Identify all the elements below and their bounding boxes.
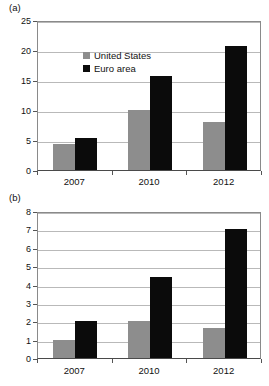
legend: United States Euro area <box>83 49 151 75</box>
figure-two-panel-bar-charts: (a) 0510152025 United States Euro area 2… <box>0 0 269 386</box>
legend-swatch-black-icon <box>83 65 90 72</box>
panel-a-y-axis: 0510152025 <box>0 21 37 171</box>
x-tick-label-2007: 2007 <box>64 365 85 376</box>
x-tick-label-2012: 2012 <box>213 176 234 187</box>
x-tick-mark <box>186 359 187 363</box>
bar-united-states-2012 <box>203 122 225 170</box>
bar-euro-area-2010 <box>150 76 172 170</box>
y-tick-label: 5 <box>26 263 31 272</box>
bar-euro-area-2012 <box>225 46 247 170</box>
legend-entry-united-states: United States <box>83 49 151 62</box>
y-tick-label: 0 <box>26 167 31 176</box>
panel-a-plot-area: United States Euro area <box>37 21 261 171</box>
panel-b-plot-area <box>37 212 261 359</box>
legend-swatch-gray-icon <box>83 52 90 59</box>
x-tick-label-2012: 2012 <box>213 365 234 376</box>
y-tick-label: 7 <box>26 226 31 235</box>
panel-a-letter: (a) <box>9 2 21 13</box>
x-tick-mark <box>112 359 113 363</box>
bar-united-states-2007 <box>53 340 75 358</box>
legend-label-united-states: United States <box>94 50 151 61</box>
panel-b: (b) 012345678 200720102012 <box>0 190 269 386</box>
bar-united-states-2010 <box>128 110 150 170</box>
legend-entry-euro-area: Euro area <box>83 62 151 75</box>
y-tick-label: 4 <box>26 281 31 290</box>
panel-b-letter: (b) <box>9 192 21 203</box>
y-tick-label: 15 <box>21 77 31 86</box>
x-tick-mark <box>261 359 262 363</box>
y-tick-label: 1 <box>26 336 31 345</box>
y-tick-label: 0 <box>26 355 31 364</box>
bar-euro-area-2012 <box>225 229 247 358</box>
bar-united-states-2010 <box>128 321 150 358</box>
x-tick-mark <box>112 171 113 175</box>
x-tick-label-2010: 2010 <box>138 176 159 187</box>
y-tick-label: 6 <box>26 244 31 253</box>
y-tick-label: 25 <box>21 17 31 26</box>
x-tick-mark <box>37 171 38 175</box>
bar-united-states-2012 <box>203 328 225 358</box>
y-tick-label: 20 <box>21 47 31 56</box>
bar-euro-area-2007 <box>75 138 97 170</box>
y-tick-label: 5 <box>26 137 31 146</box>
bar-euro-area-2010 <box>150 277 172 358</box>
x-tick-label-2007: 2007 <box>64 176 85 187</box>
y-tick-label: 3 <box>26 299 31 308</box>
x-tick-mark <box>186 171 187 175</box>
y-tick-label: 10 <box>21 107 31 116</box>
legend-label-euro-area: Euro area <box>94 63 136 74</box>
y-tick-label: 8 <box>26 208 31 217</box>
gridline <box>38 22 260 23</box>
x-tick-mark <box>261 171 262 175</box>
bar-euro-area-2007 <box>75 321 97 358</box>
y-tick-label: 2 <box>26 318 31 327</box>
x-tick-label-2010: 2010 <box>138 365 159 376</box>
panel-a: (a) 0510152025 United States Euro area 2… <box>0 0 269 196</box>
panel-b-y-axis: 012345678 <box>0 212 37 359</box>
gridline <box>38 213 260 214</box>
bar-united-states-2007 <box>53 144 75 170</box>
x-tick-mark <box>37 359 38 363</box>
